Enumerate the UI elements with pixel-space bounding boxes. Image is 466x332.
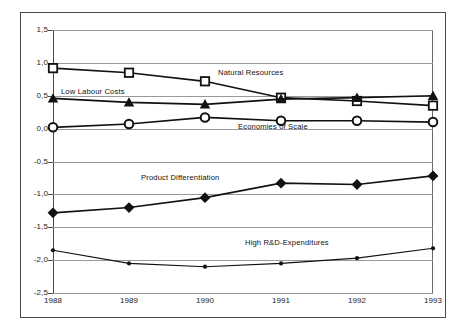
data-point-square-open: [201, 77, 209, 85]
y-axis-labels: 1,51,00,50,0-0,5-1,0-1,5-2,0-2,5: [0, 30, 48, 293]
data-point-circle-open: [353, 116, 362, 125]
series-label-high-r-d-expenditures: High R&D-Expenditures: [245, 238, 329, 247]
data-point-dot-small: [127, 261, 131, 265]
x-axis-tick-label: 1989: [120, 296, 138, 305]
x-axis-tick-label: 1992: [348, 296, 366, 305]
y-axis-tick-label: -1,0: [34, 189, 48, 198]
data-point-diamond-filled: [200, 192, 211, 203]
data-point-dot-small: [203, 265, 207, 269]
data-point-circle-open: [125, 120, 134, 129]
gridline: [53, 293, 433, 294]
series-label-natural-resources: Natural Resources: [218, 68, 283, 77]
data-point-circle-open: [429, 118, 438, 127]
data-point-square-open: [125, 69, 133, 77]
data-point-dot-small: [279, 261, 283, 265]
y-axis-tick: [48, 293, 53, 294]
series-line: [53, 96, 433, 105]
series-high-r-d-expenditures: [51, 246, 435, 269]
series-product-differentiation: [48, 171, 439, 219]
series-label-economies-of-scale: Economies of Scale: [238, 122, 308, 131]
data-point-diamond-filled: [352, 179, 363, 190]
x-axis-tick-label: 1991: [272, 296, 290, 305]
data-point-diamond-filled: [124, 202, 135, 213]
x-axis-tick-label: 1988: [44, 296, 62, 305]
series-line: [53, 176, 433, 213]
y-axis-tick-label: -0,5: [34, 157, 48, 166]
data-point-dot-small: [355, 256, 359, 260]
y-axis-tick-label: 1,0: [37, 58, 48, 67]
data-point-circle-open: [49, 123, 58, 132]
data-point-dot-small: [51, 248, 55, 252]
x-axis-tick-label: 1993: [424, 296, 442, 305]
y-axis-tick-label: -1,5: [34, 222, 48, 231]
y-axis-tick-label: 1,5: [37, 25, 48, 34]
series-line: [53, 248, 433, 266]
chart-container: 1,51,00,50,0-0,5-1,0-1,5-2,0-2,5 1988198…: [0, 0, 466, 332]
data-point-square-open: [429, 101, 437, 109]
series-label-product-differentiation: Product Differentiation: [141, 173, 219, 182]
x-axis-tick-label: 1990: [196, 296, 214, 305]
y-axis-tick-label: 0,0: [37, 124, 48, 133]
data-point-circle-open: [201, 113, 210, 122]
y-axis-tick-label: 0,5: [37, 91, 48, 100]
data-point-diamond-filled: [276, 178, 287, 189]
data-point-dot-small: [431, 246, 435, 250]
series-label-low-labour-costs: Low Labour Costs: [61, 87, 125, 96]
y-axis-tick-label: -2,0: [34, 255, 48, 264]
data-point-square-open: [49, 64, 57, 72]
